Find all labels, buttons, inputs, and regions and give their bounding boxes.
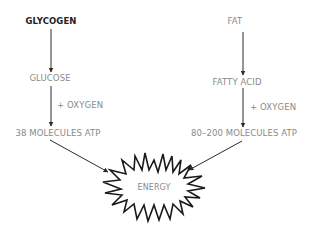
label-fatty-acid: FATTY ACID [212, 77, 261, 87]
arrow-left-atp-to-energy [50, 140, 108, 172]
label-fat: FAT [228, 16, 243, 26]
label-right-atp: 80–200 MOLECULES ATP [191, 128, 297, 138]
label-glucose: GLUCOSE [29, 73, 70, 83]
label-left-atp: 38 MOLECULES ATP [15, 128, 100, 138]
arrow-right-atp-to-energy [189, 141, 242, 170]
label-right-oxygen: + OXYGEN [250, 102, 296, 112]
label-glycogen: GLYCOGEN [25, 16, 76, 26]
diagram-canvas [0, 0, 311, 240]
label-energy: ENERGY [138, 183, 171, 193]
label-left-oxygen: + OXYGEN [57, 100, 103, 110]
